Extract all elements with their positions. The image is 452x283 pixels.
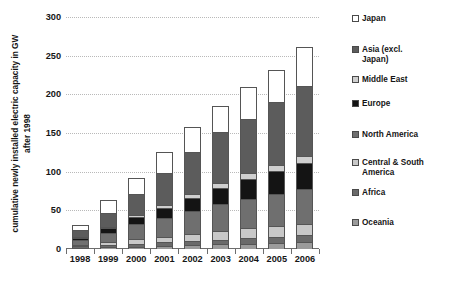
y-tick-label: 150 (46, 128, 61, 138)
legend-label: Africa (362, 188, 385, 198)
bar-segment (100, 213, 117, 227)
bar-2006[interactable] (296, 47, 313, 249)
bar-2005[interactable] (268, 70, 285, 249)
legend-item[interactable]: Europe (352, 99, 390, 109)
bar-2003[interactable] (212, 106, 229, 249)
x-tick-label-2001: 2001 (154, 254, 174, 264)
bar-2004[interactable] (240, 87, 257, 249)
bar-segment (212, 188, 229, 204)
y-tick-label: 0 (56, 244, 61, 254)
bar-segment (296, 86, 313, 156)
bar-segment (296, 156, 313, 163)
bar-segment (72, 230, 89, 237)
bar-segment (128, 217, 145, 224)
bar-segment (184, 234, 201, 241)
x-tick-label-2003: 2003 (210, 254, 230, 264)
bar-segment (268, 243, 285, 249)
x-axis-labels: 199819992000200120022003200420052006 (66, 254, 319, 270)
gridline (66, 56, 319, 57)
bar-2000[interactable] (128, 178, 145, 249)
legend-item[interactable]: North America (352, 130, 418, 140)
bar-segment (212, 106, 229, 132)
bar-segment (156, 208, 173, 218)
bar-segment (296, 235, 313, 242)
bar-segment (268, 70, 285, 102)
legend-label: Central & South America (362, 158, 424, 177)
legend-label: Asia (excl. Japan) (362, 45, 403, 64)
bar-segment (268, 226, 285, 237)
legend-swatch-icon (352, 100, 359, 107)
bar-segment (156, 173, 173, 205)
bar-segment (100, 200, 117, 212)
bar-segment (128, 247, 145, 249)
bar-segment (240, 119, 257, 173)
legend-swatch-icon (352, 46, 359, 53)
bar-segment (184, 152, 201, 195)
legend-item[interactable]: Africa (352, 188, 385, 198)
y-tick-label: 250 (46, 51, 61, 61)
bar-segment (156, 246, 173, 249)
bar-segment (156, 152, 173, 173)
y-tick-label: 50 (51, 205, 61, 215)
bar-segment (100, 233, 117, 242)
bar-segment (240, 87, 257, 119)
bar-segment (212, 132, 229, 183)
legend-item[interactable]: Oceania (352, 218, 394, 228)
legend-item[interactable]: Japan (352, 14, 386, 24)
y-axis-title-text: cumulative newly installed electric capa… (10, 26, 33, 241)
plot-area: 050100150200250300 (66, 17, 319, 249)
y-tick-label: 100 (46, 167, 61, 177)
legend-label: Japan (362, 14, 386, 24)
legend-label: North America (362, 130, 418, 140)
x-tick-label-2000: 2000 (126, 254, 146, 264)
bar-segment (296, 47, 313, 86)
legend-label: Middle East (362, 75, 408, 85)
y-tick-label: 300 (46, 12, 61, 22)
bar-segment (240, 228, 257, 238)
legend-swatch-icon (352, 219, 359, 226)
bar-segment (296, 163, 313, 189)
bar-segment (100, 247, 117, 249)
legend-swatch-icon (352, 189, 359, 196)
bar-segment (240, 179, 257, 199)
legend-swatch-icon (352, 131, 359, 138)
chart-root: cumulative newly installed electric capa… (0, 0, 452, 283)
y-tick-label: 200 (46, 89, 61, 99)
bar-segment (212, 244, 229, 249)
x-tick-label-1999: 1999 (98, 254, 118, 264)
bar-segment (184, 211, 201, 234)
legend-item[interactable]: Middle East (352, 75, 408, 85)
bar-segment (296, 224, 313, 236)
legend-label: Europe (362, 99, 390, 109)
bar-segment (212, 204, 229, 231)
bar-segment (240, 199, 257, 228)
bar-segment (72, 248, 89, 249)
bar-segment (184, 245, 201, 249)
legend-item[interactable]: Asia (excl. Japan) (352, 45, 403, 64)
x-axis-tick (319, 249, 320, 254)
bar-segment (128, 178, 145, 194)
bar-segment (240, 244, 257, 249)
x-tick-label-2005: 2005 (267, 254, 287, 264)
legend-label: Oceania (362, 218, 394, 228)
y-axis-title: cumulative newly installed electric capa… (4, 20, 38, 245)
x-tick-label-2006: 2006 (295, 254, 315, 264)
bar-segment (128, 224, 145, 239)
bar-segment (268, 194, 285, 226)
bar-segment (268, 102, 285, 165)
bar-2002[interactable] (184, 127, 201, 249)
gridline (66, 17, 319, 18)
bar-segment (296, 242, 313, 249)
x-tick-label-2002: 2002 (182, 254, 202, 264)
x-tick-label-1998: 1998 (70, 254, 90, 264)
bar-segment (128, 194, 145, 215)
bar-segment (212, 231, 229, 240)
bar-1998[interactable] (72, 225, 89, 249)
legend-swatch-icon (352, 15, 359, 22)
bar-2001[interactable] (156, 152, 173, 249)
bar-1999[interactable] (100, 200, 117, 249)
bar-segment (156, 218, 173, 237)
bar-segment (184, 198, 201, 211)
legend-item[interactable]: Central & South America (352, 158, 424, 177)
bar-segment (296, 189, 313, 223)
